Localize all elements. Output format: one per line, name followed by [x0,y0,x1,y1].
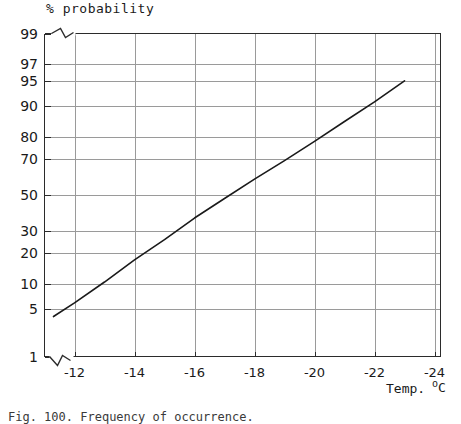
y-tick-label: 80 [4,130,38,144]
data-series-line [54,81,405,317]
celsius-letter: C [438,380,446,395]
x-tick-label: -20 [293,366,337,379]
figure-caption: Fig. 100. Frequency of occurrence. [8,410,254,424]
y-axis-title: % probability [46,1,154,16]
x-tick-label: -22 [353,366,397,379]
y-tick-label: 50 [4,188,38,202]
y-tick-label: 97 [4,57,38,71]
y-tick-label: 5 [4,302,38,316]
x-axis-units: oC [432,380,446,395]
y-tick-label: 20 [4,246,38,260]
y-axis-tick-labels: 9997959080705030201051 [0,0,38,419]
y-tick-label: 95 [4,74,38,88]
x-tick-label: -12 [53,366,97,379]
y-tick-label: 10 [4,277,38,291]
x-axis-title: Temp. [386,381,425,396]
y-tick-label: 70 [4,152,38,166]
y-tick-label: 30 [4,224,38,238]
x-tick-label: -18 [233,366,277,379]
x-tick-label: -16 [173,366,217,379]
y-tick-label: 1 [4,350,38,364]
x-tick-label: -14 [113,366,157,379]
y-tick-label: 90 [4,99,38,113]
y-tick-label: 99 [4,27,38,41]
series-line [54,81,405,317]
